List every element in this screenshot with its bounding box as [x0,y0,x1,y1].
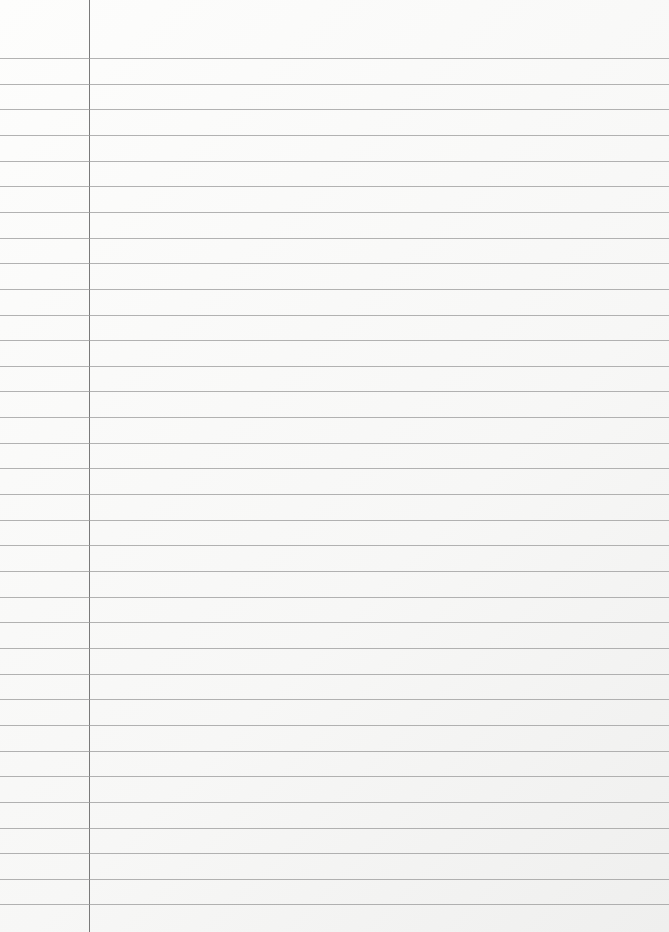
ruled-line [0,366,669,367]
ruled-line [0,340,669,341]
ruled-line [0,828,669,829]
ruled-line [0,879,669,880]
ruled-line [0,212,669,213]
ruled-line [0,315,669,316]
ruled-line [0,622,669,623]
ruled-line [0,468,669,469]
margin-line [89,0,90,932]
ruled-line [0,520,669,521]
lined-paper [0,0,669,932]
ruled-line [0,109,669,110]
ruled-line [0,238,669,239]
ruled-line [0,597,669,598]
ruled-line [0,853,669,854]
ruled-line [0,725,669,726]
ruled-line [0,494,669,495]
ruled-line [0,417,669,418]
ruled-line [0,751,669,752]
ruled-line [0,186,669,187]
ruled-line [0,135,669,136]
ruled-line [0,674,669,675]
ruled-line [0,289,669,290]
ruled-line [0,545,669,546]
ruled-line [0,904,669,905]
ruled-line [0,776,669,777]
ruled-line [0,161,669,162]
ruled-line [0,699,669,700]
ruled-line [0,58,669,59]
ruled-line [0,571,669,572]
ruled-line [0,443,669,444]
ruled-line [0,84,669,85]
ruled-line [0,391,669,392]
ruled-line [0,263,669,264]
ruled-line [0,802,669,803]
ruled-line [0,648,669,649]
